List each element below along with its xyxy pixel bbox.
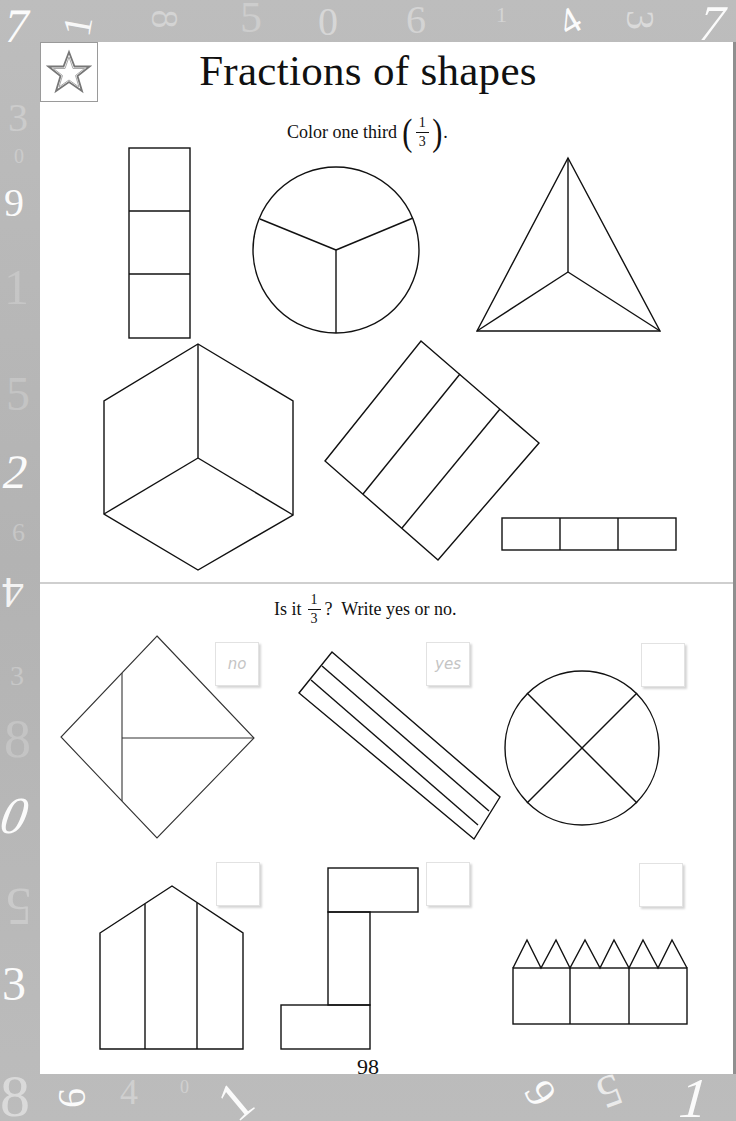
circle-4-parts — [505, 671, 659, 825]
triangle-3-parts[interactable] — [477, 158, 660, 331]
vertical-rectangle-3-parts[interactable] — [129, 148, 190, 338]
answer-box-circle[interactable] — [641, 643, 685, 687]
hexagon-3-parts[interactable] — [104, 344, 293, 570]
answer-box-crown[interactable] — [639, 863, 683, 907]
shapes-canvas — [0, 0, 736, 1121]
answer-box-z-shape[interactable] — [426, 862, 470, 906]
answer-box-house[interactable] — [216, 862, 260, 906]
page-number: 98 — [0, 1054, 736, 1080]
answer-box-diamond[interactable]: no — [215, 642, 259, 686]
circle-3-parts[interactable] — [253, 167, 419, 333]
tilted-rectangle-3-parts[interactable] — [325, 341, 539, 560]
z-shape-3-parts — [281, 868, 418, 1049]
house-3-parts — [100, 886, 243, 1049]
answer-box-strip[interactable]: yes — [426, 642, 470, 686]
crown-3-parts — [513, 940, 687, 1024]
horizontal-rectangle-3-parts[interactable] — [502, 518, 676, 550]
